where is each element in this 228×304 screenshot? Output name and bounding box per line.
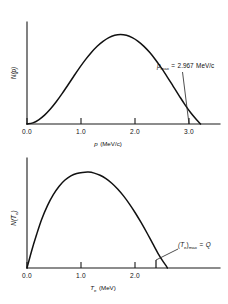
kinetic-energy-spectrum-svg: 0.0 1.0 2.0 Te(MeV) N(Te) (Te)max=Q [0,150,228,304]
annotation-pmax: pmax=2.967MeV/c [156,62,215,71]
y-axis-label-bottom: N(Te) [10,210,19,225]
chart-kinetic-energy-spectrum: 0.0 1.0 2.0 Te(MeV) N(Te) (Te)max=Q [0,150,228,304]
annotation-value-top: 2.967 [178,62,194,69]
x-axis-title-unit-top: (MeV/c) [100,140,122,147]
x-tick-label-0-bottom: 0.0 [22,272,32,279]
figure-beta-spectra: 0.0 1.0 2.0 3.0 p(MeV/c) N(p) pmax=2.967… [0,0,228,304]
annotation-subscript-max: max [161,66,170,71]
x-axis-title-unit-bottom: (MeV) [99,284,116,291]
annotation-equals-bottom: = [199,241,203,248]
y-axis-label-close-bottom: ) [10,210,18,213]
x-tick-label-2: 2.0 [130,128,140,135]
x-tick-label-3: 3.0 [184,128,194,135]
annotation-leader-line-top [183,72,190,124]
x-tick-label-1-bottom: 1.0 [76,272,86,279]
kinetic-energy-spectrum-curve [27,172,167,268]
x-axis-title-top: p(MeV/c) [93,140,122,147]
x-tick-label-2-bottom: 2.0 [130,272,140,279]
annotation-value-bottom: Q [206,241,211,249]
annotation-sub-max-bottom: max [189,245,198,250]
x-axis-title-bottom: Te(MeV) [90,284,116,293]
annotation-equals-top: = [171,62,175,69]
momentum-spectrum-curve [27,35,201,124]
y-axis-label-top: N(p) [10,67,18,79]
annotation-unit-top: MeV/c [196,62,215,69]
annotation-temax: (Te)max=Q [178,241,211,250]
x-tick-label-0: 0.0 [22,128,32,135]
x-axis-title-symbol-top: p [93,140,98,147]
chart-momentum-spectrum: 0.0 1.0 2.0 3.0 p(MeV/c) N(p) pmax=2.967… [0,0,228,152]
momentum-spectrum-svg: 0.0 1.0 2.0 3.0 p(MeV/c) N(p) pmax=2.967… [0,0,228,152]
x-tick-label-1: 1.0 [76,128,86,135]
x-axis-title-sub-bottom: e [94,288,97,293]
